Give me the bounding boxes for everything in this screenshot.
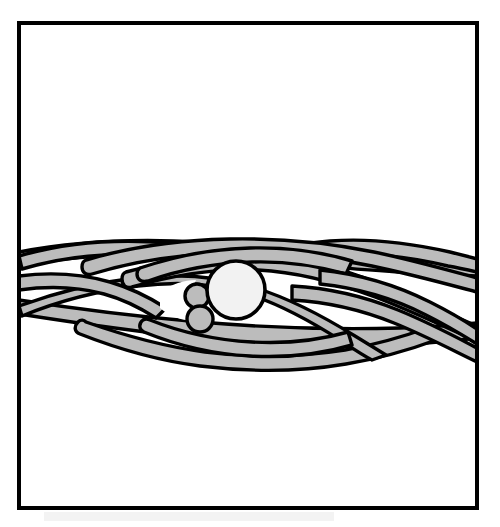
core-small-lower-circle: [187, 306, 213, 332]
figure-page: Braided Strand Cross Section Figure Blac…: [0, 0, 500, 527]
braid-figure-svg: [0, 0, 500, 527]
core-large-circle: [207, 261, 265, 319]
scan-smudge-artifact: [44, 512, 334, 521]
